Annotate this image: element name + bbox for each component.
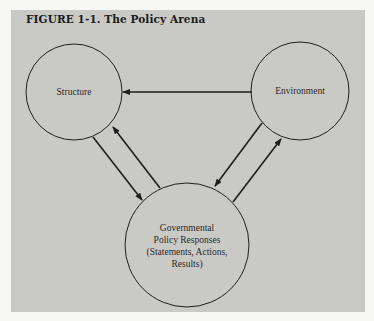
- policy-arena-diagram: [0, 0, 374, 321]
- arrow-government-to-environment: [233, 139, 281, 202]
- arrow-environment-to-government: [215, 123, 262, 186]
- government-label-line: Results): [132, 258, 242, 270]
- arrow-government-to-structure: [113, 127, 160, 188]
- environment-label: Environment: [258, 85, 342, 97]
- arrow-structure-to-government: [93, 137, 142, 200]
- government-label-line: Policy Responses: [132, 234, 242, 246]
- government-label: Governmental Policy Responses (Statement…: [132, 222, 242, 270]
- structure-label: Structure: [34, 86, 114, 98]
- government-label-line: (Statements, Actions,: [132, 246, 242, 258]
- government-label-line: Governmental: [132, 222, 242, 234]
